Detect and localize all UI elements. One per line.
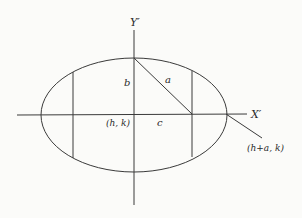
x-axis-label: X′ [250,108,262,121]
label-vertex: (h+a, k) [247,143,284,153]
label-a: a [165,74,171,85]
x-axis [17,114,247,115]
label-b: b [124,77,130,88]
ellipse-diagram: Y′ X′ b a (h, k) c (h+a, k) [0,0,302,218]
y-axis-label: Y′ [130,16,140,29]
label-center: (h, k) [106,118,130,128]
label-c: c [157,117,163,128]
